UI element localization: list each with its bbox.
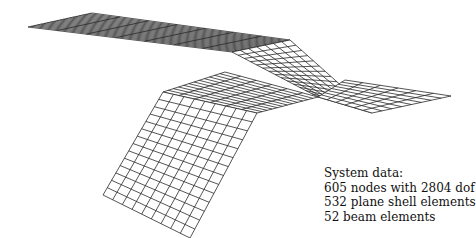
caption-line-shell-elements: 532 plane shell elements xyxy=(324,195,476,210)
system-data-caption: System data: 605 nodes with 2804 dof 532… xyxy=(324,166,476,224)
caption-title: System data: xyxy=(324,166,476,181)
lower-right-plate xyxy=(318,80,451,113)
caption-line-nodes: 605 nodes with 2804 dof xyxy=(324,181,476,196)
upper-plate xyxy=(28,13,290,52)
caption-line-beam-elements: 52 beam elements xyxy=(324,210,476,225)
hanging-wall xyxy=(103,92,257,238)
